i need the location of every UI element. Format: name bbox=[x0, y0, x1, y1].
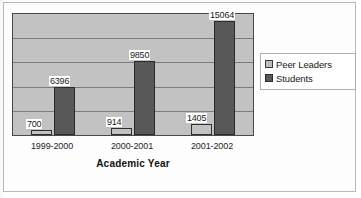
legend-item-students[interactable]: Students bbox=[265, 71, 352, 85]
bar-peer-leaders[interactable] bbox=[31, 130, 52, 135]
bar-group: 7006396 bbox=[13, 14, 93, 135]
bar-value-label: 1405 bbox=[186, 113, 207, 123]
bar-value-label: 15064 bbox=[209, 10, 235, 20]
category-axis: 1999-20002000-20012001-2002 bbox=[12, 140, 254, 154]
bar-students[interactable] bbox=[54, 87, 75, 135]
bar-value-label: 700 bbox=[26, 119, 42, 129]
category-label: 2001-2002 bbox=[172, 140, 252, 152]
bar-series-container: 70063969149850140515064 bbox=[13, 14, 253, 135]
legend-label-peer-leaders: Peer Leaders bbox=[276, 59, 332, 70]
chart-figure: 70063969149850140515064 1999-20002000-20… bbox=[3, 2, 356, 192]
bar-peer-leaders[interactable] bbox=[191, 124, 212, 135]
category-label: 2000-2001 bbox=[92, 140, 172, 152]
bar-students[interactable] bbox=[214, 21, 235, 135]
bar-peer-leaders[interactable] bbox=[111, 128, 132, 135]
legend-label-students: Students bbox=[276, 73, 313, 84]
plot-area: 70063969149850140515064 bbox=[12, 13, 254, 136]
bar-value-label: 6396 bbox=[49, 76, 70, 86]
bar-group: 9149850 bbox=[93, 14, 173, 135]
legend-swatch-students-icon bbox=[265, 74, 273, 82]
chart-legend: Peer Leaders Students bbox=[260, 53, 356, 90]
legend-swatch-peer-leaders-icon bbox=[265, 60, 273, 68]
category-label: 1999-2000 bbox=[12, 140, 92, 152]
bar-value-label: 914 bbox=[106, 117, 122, 127]
bar-students[interactable] bbox=[134, 61, 155, 135]
bar-value-label: 9850 bbox=[129, 50, 150, 60]
x-axis-title: Academic Year bbox=[12, 158, 254, 169]
legend-item-peer-leaders[interactable]: Peer Leaders bbox=[265, 57, 352, 71]
bar-group: 140515064 bbox=[173, 14, 253, 135]
